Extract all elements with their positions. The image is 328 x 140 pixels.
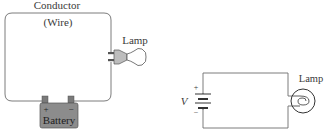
lamp-symbol-icon (291, 89, 315, 113)
lamp-label: Lamp (122, 34, 148, 46)
lamp-bulb-icon (108, 48, 146, 65)
battery-label: Battery (43, 114, 76, 126)
schematic-plus-sign: + (194, 83, 199, 92)
conductor-label: Conductor (34, 0, 81, 11)
schematic-lamp-label: Lamp (299, 73, 324, 84)
battery-minus-sign: − (68, 104, 73, 114)
pictorial-circuit: Conductor (Wire) Lamp + − Battery (5, 0, 148, 128)
voltage-label: V (181, 95, 189, 107)
wire-label: (Wire) (44, 16, 73, 29)
schematic-minus-sign: − (194, 108, 199, 117)
schematic-wire (203, 73, 292, 128)
schematic-circuit: + − V Lamp (181, 73, 324, 128)
battery-plus-sign: + (43, 104, 48, 114)
circuit-diagram: Conductor (Wire) Lamp + − Battery (0, 0, 328, 140)
